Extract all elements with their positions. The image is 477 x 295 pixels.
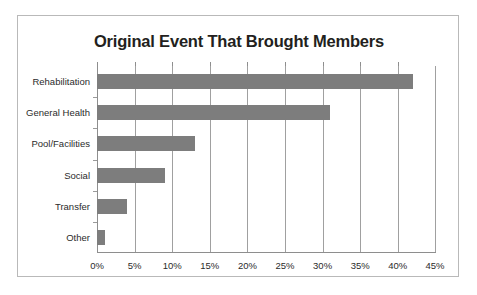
category-label-rehabilitation: Rehabilitation: [19, 75, 97, 88]
bar-social[interactable]: [97, 168, 165, 183]
x-tick-label-5: 5%: [128, 260, 142, 271]
bar-row: Social: [97, 160, 436, 191]
bar-row: Pool/Facilities: [97, 128, 436, 159]
x-tick-label-0: 0%: [90, 260, 104, 271]
bar-row: Rehabilitation: [97, 66, 436, 97]
bar-row: Transfer: [97, 191, 436, 222]
x-axis-tick-labels: 0% 5% 10% 15% 20% 25% 30% 35% 40% 45%: [97, 253, 436, 273]
x-tick-label-25: 25%: [275, 260, 294, 271]
chart-title: Original Event That Brought Members: [18, 32, 460, 51]
bar-row: General Health: [97, 97, 436, 128]
bar-pool-facilities[interactable]: [97, 136, 195, 151]
category-label-transfer: Transfer: [19, 200, 97, 213]
plot-area: Rehabilitation General Health Pool/Facil…: [97, 66, 436, 253]
bar-other[interactable]: [97, 230, 105, 245]
x-tick-label-45: 45%: [425, 260, 444, 271]
category-label-social: Social: [19, 169, 97, 182]
bar-general-health[interactable]: [97, 105, 330, 120]
x-tick-label-15: 15%: [200, 260, 219, 271]
chart-frame: Original Event That Brought Members: [17, 15, 459, 277]
bar-row: Other: [97, 222, 436, 253]
x-tick-label-40: 40%: [388, 260, 407, 271]
category-label-pool-facilities: Pool/Facilities: [19, 137, 97, 150]
bar-rehabilitation[interactable]: [97, 74, 413, 89]
category-label-other: Other: [19, 231, 97, 244]
bar-transfer[interactable]: [97, 199, 127, 214]
x-tick-label-10: 10%: [163, 260, 182, 271]
x-tick-label-20: 20%: [238, 260, 257, 271]
category-label-general-health: General Health: [19, 106, 97, 119]
x-tick-label-30: 30%: [313, 260, 332, 271]
x-tick-label-35: 35%: [351, 260, 370, 271]
